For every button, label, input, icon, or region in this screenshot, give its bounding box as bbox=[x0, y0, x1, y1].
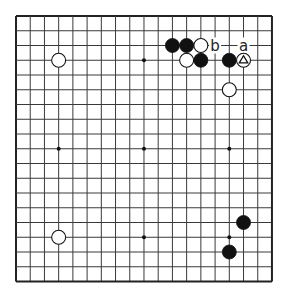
point-label-b: b bbox=[210, 37, 220, 55]
black-stone bbox=[165, 39, 179, 53]
white-stone bbox=[222, 83, 236, 97]
star-point bbox=[142, 235, 146, 239]
black-stone bbox=[222, 53, 236, 67]
star-point bbox=[57, 147, 61, 151]
white-stone bbox=[52, 230, 66, 244]
star-point bbox=[227, 235, 231, 239]
black-stone bbox=[194, 53, 208, 67]
black-stone bbox=[237, 216, 251, 230]
star-point bbox=[142, 147, 146, 151]
white-stone bbox=[52, 53, 66, 67]
go-board: ba bbox=[0, 0, 284, 297]
white-stone bbox=[194, 39, 208, 53]
black-stone bbox=[222, 245, 236, 259]
star-point bbox=[227, 147, 231, 151]
black-stone bbox=[180, 39, 194, 53]
point-label-a: a bbox=[239, 37, 248, 55]
white-stone bbox=[180, 53, 194, 67]
star-point bbox=[142, 58, 146, 62]
